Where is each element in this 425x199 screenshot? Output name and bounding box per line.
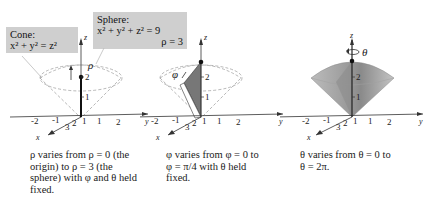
x-tick-3: 3 xyxy=(185,122,190,132)
y-tick-2: 2 xyxy=(236,117,241,127)
z-axis-label: z xyxy=(203,33,208,42)
y-tick-2: 2 xyxy=(116,117,121,127)
x-tick-1: 1 xyxy=(82,116,87,126)
y-tick-neg1: -1 xyxy=(172,115,180,125)
y-tick-1: 1 xyxy=(217,116,222,126)
x-tick-2: 2 xyxy=(72,118,77,128)
z-tick-1: 1 xyxy=(205,92,210,102)
caption-line: origin) to ρ = 3 (the xyxy=(30,161,155,173)
x-tick-1: 1 xyxy=(202,116,207,126)
y-tick-neg2: -2 xyxy=(31,116,39,126)
caption-line: θ varies from θ = 0 to xyxy=(300,149,415,161)
x-axis-label: x xyxy=(306,133,311,140)
z-tick-2: 2 xyxy=(205,72,210,82)
z-tick-1: 1 xyxy=(85,92,90,102)
phi-caption: φ varies from φ = 0 to φ = π/4 with θ he… xyxy=(166,149,281,184)
theta-caption: θ varies from θ = 0 to θ = 2π. xyxy=(300,149,415,172)
theta-symbol: θ xyxy=(362,46,368,58)
caption-line: fixed. xyxy=(30,184,155,196)
x-tick-2: 2 xyxy=(343,118,348,128)
rho-panel-figure: 1 2 ρ z -2 -1 1 2 3 2 1 x y xyxy=(0,0,150,140)
phi-panel-figure: 1 2 φ z -2 -1 1 2 3 2 1 x y xyxy=(140,0,285,140)
y-tick-1: 1 xyxy=(368,116,373,126)
x-axis-label: x xyxy=(155,133,160,140)
rho-caption: ρ varies from ρ = 0 (the origin) to ρ = … xyxy=(30,149,155,195)
x-tick-1: 1 xyxy=(353,116,358,126)
caption-line: ρ varies from ρ = 0 (the xyxy=(30,149,155,161)
y-tick-neg2: -2 xyxy=(302,116,310,126)
caption-line: φ = π/4 with θ held xyxy=(166,161,281,173)
y-tick-1: 1 xyxy=(97,116,102,126)
y-tick-neg1: -1 xyxy=(52,115,60,125)
y-tick-2: 2 xyxy=(387,117,392,127)
y-tick-neg2: -2 xyxy=(151,116,159,126)
x-axis-label: x xyxy=(35,133,40,140)
phi-symbol: φ xyxy=(172,68,178,80)
caption-line: θ = 2π. xyxy=(300,161,415,173)
z-tick-2: 2 xyxy=(85,72,90,82)
z-tick-1: 1 xyxy=(356,92,361,102)
y-tick-neg1: -1 xyxy=(323,115,331,125)
z-axis-label: z xyxy=(349,31,354,40)
x-tick-3: 3 xyxy=(336,122,341,132)
z-tick-2: 2 xyxy=(356,72,361,82)
caption-line: sphere) with φ and θ held xyxy=(30,172,155,184)
z-axis-label: z xyxy=(83,33,88,42)
caption-line: fixed. xyxy=(166,172,281,184)
y-axis-label: y xyxy=(418,117,423,126)
x-tick-2: 2 xyxy=(192,118,197,128)
rho-symbol: ρ xyxy=(87,59,93,71)
caption-line: φ varies from φ = 0 to xyxy=(166,149,281,161)
x-tick-3: 3 xyxy=(65,122,70,132)
theta-panel-figure: 1 2 θ z -2 -1 1 2 3 2 1 x y xyxy=(280,0,425,140)
